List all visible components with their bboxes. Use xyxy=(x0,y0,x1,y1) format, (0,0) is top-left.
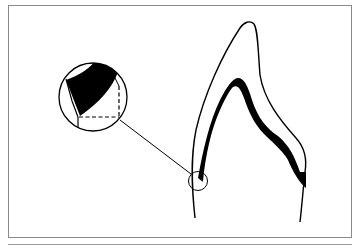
tooth-outline xyxy=(192,22,306,222)
detail-circle-small xyxy=(189,172,208,191)
leader-line xyxy=(120,120,191,174)
dark-layer-band xyxy=(198,78,306,188)
magnified-detail-circle xyxy=(59,60,127,132)
tooth-diagram xyxy=(0,0,360,247)
